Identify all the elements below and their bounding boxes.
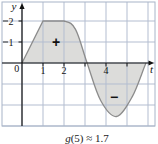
y-axis-arrow-icon [19,3,24,9]
caption-value: (5) ≈ 1.7 [71,132,109,144]
negative-region-sign-label: − [110,89,118,105]
y-tick-label: 1 [9,37,14,48]
x-tick-label: 4 [104,65,109,76]
x-axis-label: t [150,63,154,75]
function-graph-figure: 012412ty+− g(5) ≈ 1.7 [0,0,158,144]
figure-caption: g(5) ≈ 1.7 [0,132,158,144]
y-axis-label: y [11,0,17,12]
origin-label: 0 [14,63,19,74]
y-tick-label: 2 [9,16,14,27]
positive-region-sign-label: + [52,34,60,50]
x-tick-label: 2 [62,65,67,76]
graph-canvas: 012412ty+− [0,0,158,131]
x-tick-label: 1 [41,65,46,76]
